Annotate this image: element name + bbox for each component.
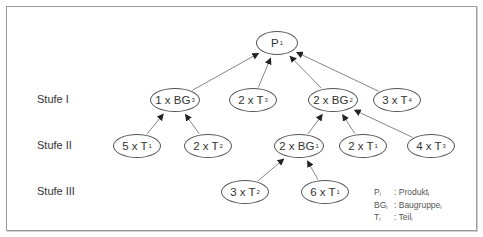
- node-t1a: 5 x T1: [113, 134, 161, 158]
- edge-t2a-to-bg3: [186, 115, 200, 134]
- node-label: 4 x T: [416, 140, 441, 152]
- node-label: 5 x T: [122, 140, 147, 152]
- level-label-2: Stufe II: [37, 139, 72, 151]
- node-subscript: 2: [220, 143, 223, 149]
- legend-text: : Teili: [394, 212, 412, 225]
- node-label: 2 x BG: [279, 140, 314, 152]
- node-label: 3 x T: [230, 186, 255, 198]
- node-bg1: 2 x BG1: [274, 134, 324, 158]
- node-subscript: 3: [265, 97, 268, 103]
- node-label: 3 x T: [382, 94, 407, 106]
- legend-symbol: Ti: [374, 212, 394, 225]
- node-label: 2 x T: [348, 140, 373, 152]
- node-label: 2 x T: [238, 94, 263, 106]
- node-label: 2 x T: [193, 140, 218, 152]
- node-subscript: 1: [149, 143, 152, 149]
- node-bg2: 2 x BG2: [308, 88, 358, 112]
- node-t3b: 4 x T3: [407, 134, 455, 158]
- node-t2a: 2 x T2: [184, 134, 232, 158]
- legend-row: BGi: Baugruppei: [374, 200, 441, 213]
- node-subscript: 2: [257, 189, 260, 195]
- node-subscript: 4: [409, 97, 412, 103]
- node-bg3: 1 x BG3: [150, 88, 200, 112]
- legend-text: : Produkti: [394, 187, 429, 200]
- node-subscript: 1: [375, 143, 378, 149]
- node-t1b: 2 x T1: [339, 134, 387, 158]
- edge-t2b-to-bg1: [258, 159, 284, 181]
- node-t3a: 2 x T3: [229, 88, 277, 112]
- edge-t1a-to-bg3: [147, 114, 163, 134]
- node-t1c: 6 x T1: [301, 180, 349, 204]
- edge-t3a-to-p1: [258, 58, 270, 87]
- node-t2b: 3 x T2: [221, 180, 269, 204]
- node-subscript: 1: [280, 40, 283, 46]
- edge-t1b-to-bg2: [343, 115, 355, 134]
- node-t4: 3 x T4: [373, 88, 421, 112]
- legend-text: : Baugruppei: [394, 200, 441, 213]
- level-label-3: Stufe III: [37, 185, 75, 197]
- legend-symbol: Pi: [374, 187, 394, 200]
- node-subscript: 2: [349, 97, 352, 103]
- level-label-1: Stufe I: [37, 93, 69, 105]
- node-subscript: 1: [315, 143, 318, 149]
- legend-row: Pi: Produkti: [374, 187, 441, 200]
- edge-bg1-to-bg2: [308, 115, 322, 134]
- node-subscript: 3: [443, 143, 446, 149]
- edge-t1c-to-bg1: [308, 161, 318, 179]
- edge-t4-to-p1: [297, 52, 379, 91]
- legend: Pi: ProduktiBGi: BaugruppeiTi: Teili: [374, 187, 441, 225]
- legend-symbol: BGi: [374, 200, 394, 213]
- edge-bg3-to-p1: [192, 53, 258, 90]
- node-label: 2 x BG: [313, 94, 348, 106]
- node-p1: P1: [256, 31, 298, 55]
- legend-row: Ti: Teili: [374, 212, 441, 225]
- edge-bg2-to-p1: [290, 56, 321, 88]
- node-label: 6 x T: [310, 186, 335, 198]
- node-label: P: [271, 37, 279, 49]
- node-label: 1 x BG: [155, 94, 190, 106]
- node-subscript: 3: [191, 97, 194, 103]
- node-subscript: 1: [337, 189, 340, 195]
